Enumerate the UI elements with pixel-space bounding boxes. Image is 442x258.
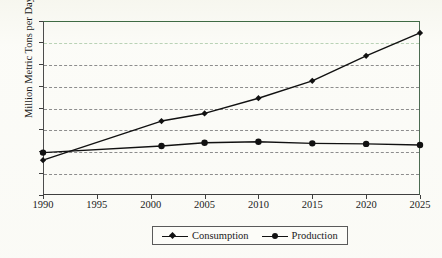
data-point-diamond — [158, 118, 164, 124]
legend-label-consumption: Consumption — [192, 230, 249, 241]
data-point-diamond — [255, 95, 261, 101]
series-production — [40, 139, 423, 156]
production-marker-icon — [262, 231, 288, 241]
data-point-diamond — [201, 110, 207, 116]
series-layer — [0, 0, 442, 258]
data-point-diamond — [309, 78, 315, 84]
data-point-circle — [158, 143, 164, 149]
data-point-circle — [40, 149, 46, 155]
legend-label-production: Production — [292, 230, 338, 241]
consumption-marker-icon — [162, 231, 188, 241]
data-point-circle — [309, 140, 315, 146]
data-point-circle — [417, 142, 423, 148]
chart-container: · · · · · · · · · · · · · · · Million Me… — [0, 0, 442, 258]
series-line — [43, 33, 420, 160]
data-point-circle — [201, 140, 207, 146]
data-point-diamond — [40, 157, 46, 163]
chart-legend: Consumption Production — [152, 226, 348, 245]
data-point-circle — [255, 139, 261, 145]
legend-item-production[interactable]: Production — [262, 230, 338, 241]
data-point-diamond — [417, 30, 423, 36]
data-point-diamond — [363, 53, 369, 59]
legend-item-consumption[interactable]: Consumption — [162, 230, 249, 241]
data-point-circle — [363, 141, 369, 147]
